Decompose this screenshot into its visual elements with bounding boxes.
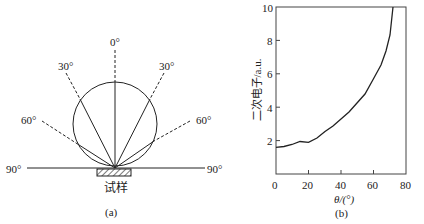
x-tick-20: 20 xyxy=(302,179,313,191)
angle-label-0: 0° xyxy=(110,36,120,48)
angle-label-left-30: 30° xyxy=(58,60,73,72)
x-tick-0: 0 xyxy=(272,179,278,191)
chart-plot xyxy=(276,7,406,174)
y-tick-8: 8 xyxy=(267,35,273,47)
diagram-canvas xyxy=(0,0,424,224)
angle-label-left-90: 90° xyxy=(6,163,21,175)
sample-label: 试样 xyxy=(104,182,128,194)
x-tick-60: 60 xyxy=(367,179,378,191)
x-axis-label: θ/(°) xyxy=(334,193,354,205)
angle-label-right-30: 30° xyxy=(159,60,174,72)
y-tick-2: 2 xyxy=(267,135,273,147)
caption-b: (b) xyxy=(335,207,348,219)
emission-diagram xyxy=(27,50,205,168)
yield-curve xyxy=(276,7,393,147)
angle-label-right-60: 60° xyxy=(196,114,211,126)
sample-block xyxy=(97,169,131,176)
x-tick-80: 80 xyxy=(400,179,411,191)
caption-a: (a) xyxy=(105,206,117,218)
angle-label-left-60: 60° xyxy=(21,114,36,126)
x-tick-40: 40 xyxy=(335,179,346,191)
angle-label-right-90: 90° xyxy=(207,163,222,175)
y-tick-6: 6 xyxy=(267,68,273,80)
y-axis-label: 二次电子/a.u. xyxy=(251,45,263,135)
y-tick-4: 4 xyxy=(267,102,273,114)
y-tick-10: 10 xyxy=(262,2,273,14)
